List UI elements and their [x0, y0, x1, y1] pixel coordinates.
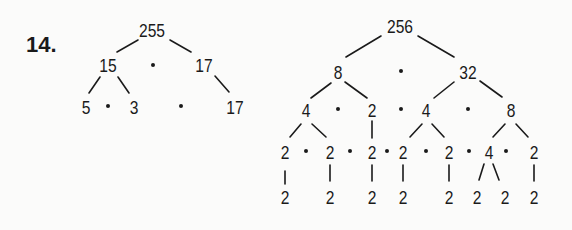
multiply-dot-icon — [399, 107, 403, 111]
multiply-dot-icon — [399, 69, 403, 73]
multiply-dot-icon — [504, 149, 508, 153]
tree-node-leaf: 2 — [501, 188, 510, 207]
multiply-dot-icon — [151, 63, 155, 67]
tree-node-leaf: 2 — [399, 188, 408, 207]
tree-node-leaf: 2 — [530, 188, 539, 207]
multiply-dot-icon — [336, 107, 340, 111]
tree-node-leaf: 17 — [226, 98, 243, 117]
tree-node: 2 — [281, 143, 290, 162]
multiply-dot-icon — [348, 149, 352, 153]
tree-node-leaf: 2 — [473, 188, 482, 207]
tree-node: 2 — [368, 101, 377, 120]
tree-node: 8 — [334, 63, 343, 82]
tree-node: 4 — [422, 101, 431, 120]
multiply-dot-icon — [467, 149, 471, 153]
multiply-dot-icon — [106, 104, 110, 108]
tree-node-root: 255 — [139, 21, 165, 40]
tree-node: 4 — [302, 101, 311, 120]
tree-node-leaf: 2 — [368, 188, 377, 207]
tree-node: 2 — [368, 143, 377, 162]
multiply-dot-icon — [424, 149, 428, 153]
tree-node: 2 — [530, 143, 539, 162]
tree-node: 4 — [485, 143, 494, 162]
tree-node-leaf: 2 — [281, 188, 290, 207]
tree-node-leaf: 2 — [326, 188, 335, 207]
tree-node: 15 — [99, 56, 116, 75]
tree-node: 2 — [445, 143, 454, 162]
multiply-dot-icon — [304, 149, 308, 153]
tree-node: 32 — [459, 63, 476, 82]
tree-node-leaf: 5 — [82, 98, 91, 117]
tree-node: 2 — [399, 143, 408, 162]
tree-node: 2 — [326, 143, 335, 162]
tree-node: 8 — [507, 101, 516, 120]
multiply-dot-icon — [385, 149, 389, 153]
tree-node-root: 256 — [387, 17, 413, 36]
multiply-dot-icon — [466, 107, 470, 111]
factor-tree-problem: 14. 25 — [0, 0, 572, 230]
tree-node-leaf: 3 — [130, 98, 139, 117]
multiply-dot-icon — [179, 104, 183, 108]
tree-node-leaf: 2 — [445, 188, 454, 207]
tree-node: 17 — [195, 56, 212, 75]
